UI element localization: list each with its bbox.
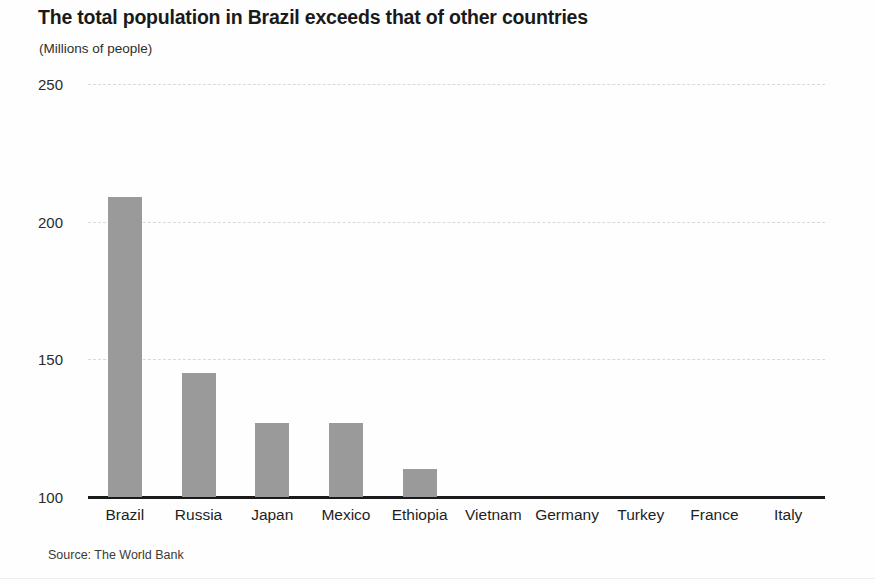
x-axis-labels: BrazilRussiaJapanMexicoEthiopiaVietnamGe… [88,506,825,536]
bar-russia [182,373,216,497]
bar-series [88,0,825,586]
x-label-italy: Italy [774,506,802,524]
bottom-divider [0,578,875,579]
x-label-vietnam: Vietnam [465,506,522,524]
x-label-japan: Japan [251,506,293,524]
x-label-russia: Russia [175,506,222,524]
x-label-ethiopia: Ethiopia [392,506,448,524]
y-tick-label-200: 200 [38,213,82,230]
chart-page: The total population in Brazil exceeds t… [0,0,875,586]
y-tick-label-150: 150 [38,351,82,368]
bar-ethiopia [403,469,437,497]
bar-brazil [108,197,142,497]
x-label-germany: Germany [535,506,599,524]
y-tick-label-250: 250 [38,76,82,93]
bar-mexico [329,423,363,497]
bar-japan [255,423,289,497]
source-note: Source: The World Bank [48,548,184,562]
x-label-france: France [690,506,738,524]
x-label-brazil: Brazil [105,506,144,524]
x-label-turkey: Turkey [617,506,664,524]
plot-area: 100150200250 BrazilRussiaJapanMexicoEthi… [0,0,875,586]
x-label-mexico: Mexico [321,506,370,524]
y-tick-label-100: 100 [38,489,82,506]
